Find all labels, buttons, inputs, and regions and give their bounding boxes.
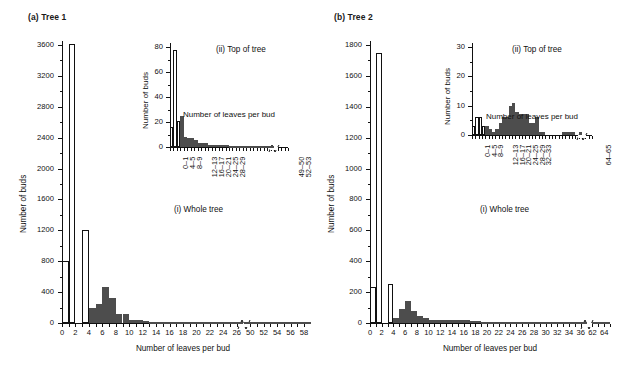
tree2-whole-tree-y-tick-label: 800	[349, 195, 362, 203]
tree1-whole-tree-y-tick-label: 2800	[37, 103, 54, 111]
tree1-top-of-tree-x-tick	[226, 148, 227, 151]
tree1-top-of-tree-y-tick-label: 20	[155, 118, 163, 126]
tree2-whole-tree-x-tick-label: 4	[391, 329, 395, 337]
tree1-whole-tree-x-tick-label: 54	[273, 329, 281, 337]
tree2-whole-tree-x-tick-label: 14	[448, 329, 456, 337]
tree2-top-of-tree-x-tick	[515, 136, 516, 139]
tree1-top-of-tree-y-tick-label: 80	[155, 43, 163, 51]
tree1-whole-tree-x-tick-label: 58	[300, 329, 308, 337]
tree1-whole-tree-x-tick-label: 50	[246, 329, 254, 337]
tree1-top-of-tree-x-tick	[239, 148, 240, 151]
tree2-whole-tree-x-tick	[411, 324, 412, 327]
tree2-whole-tree-x-tick	[393, 324, 394, 327]
tree2-whole-tree-y-tick-label: 600	[349, 226, 362, 234]
tree1-whole-tree-x-tick	[102, 324, 103, 327]
tree2-top-of-tree-y-minor-tick	[470, 120, 473, 121]
tree1-top-of-tree-y-tick	[166, 72, 170, 73]
tree2-top-of-tree-x-tick	[569, 136, 570, 139]
tree2-whole-tree-x-tick-label: 30	[541, 329, 549, 337]
tree1-whole-tree-x-tick	[143, 324, 144, 327]
tree1-whole-tree-x-tick-label: 22	[206, 329, 214, 337]
tree1-whole-tree-x-tick	[69, 324, 70, 327]
tree1-top-of-tree-x-tick	[177, 148, 178, 151]
tree1-whole-tree-x-tick-label: 8	[114, 329, 118, 337]
tree2-whole-tree-y-minor-tick	[368, 122, 371, 123]
tree1-top-of-tree-y-tick-label: 0	[159, 143, 163, 151]
tree1-whole-tree-y-minor-tick	[60, 184, 63, 185]
tree2-whole-tree-x-tick	[417, 324, 418, 327]
tree2-whole-tree-y-tick	[366, 230, 370, 231]
tree1-top-of-tree-x-tick	[257, 148, 258, 151]
tree1-whole-tree-bar-filled	[244, 322, 251, 324]
tree1-top-of-tree-x-tick	[187, 148, 188, 151]
tree2-whole-tree-x-tick	[499, 324, 500, 327]
tree1-whole-tree-y-minor-tick	[60, 215, 63, 216]
tree1-whole-tree-x-tick	[156, 324, 157, 327]
tree1-whole-tree-bar-filled	[163, 322, 170, 324]
tree2-whole-tree-y-axis	[370, 41, 371, 324]
tree2-whole-tree-x-tick	[505, 324, 506, 327]
tree1-whole-tree-bar-filled	[136, 320, 143, 323]
tree2-top-of-tree-y-axis-title: Number of buds	[444, 68, 452, 125]
tree2-top-of-tree-x-tick	[525, 136, 526, 139]
tree1-whole-tree-bar-filled	[203, 322, 210, 324]
tree1-top-of-tree-x-tick	[243, 148, 244, 151]
tree1-whole-tree-bar-filled	[149, 322, 156, 324]
tree1-whole-tree-x-tick-label: 16	[165, 329, 173, 337]
tree1-whole-tree-x-tick-label: 18	[179, 329, 187, 337]
tree2-whole-tree-bar-open	[388, 284, 394, 323]
tree2-top-of-tree-y-tick-label: 10	[457, 102, 465, 110]
tree2-top-of-tree-x-axis-title: Number of leaves per bud	[486, 113, 578, 121]
tree2-whole-tree-x-tick	[569, 324, 570, 327]
tree1-top-of-tree-y-minor-tick	[168, 110, 171, 111]
tree2-whole-tree-x-tick-label: 62	[588, 329, 596, 337]
tree1-whole-tree-x-axis-title: Number of leaves per bud	[136, 345, 230, 353]
tree1-whole-tree-y-tick-label: 3200	[37, 72, 54, 80]
tree2-whole-tree-x-tick-label: 22	[495, 329, 503, 337]
tree1-whole-tree-bar-filled	[143, 321, 150, 323]
tree1-whole-tree-bar-filled	[237, 322, 244, 324]
tree1-whole-tree-x-tick	[230, 324, 231, 327]
tree1-top-of-tree-x-tick	[180, 148, 181, 151]
tree1-top-of-tree-y-tick	[166, 122, 170, 123]
tree1-top-of-tree-x-tick	[205, 148, 206, 151]
tree2-whole-tree-x-tick	[510, 324, 511, 327]
tree1-whole-tree-x-tick	[264, 324, 265, 327]
tree1-top-of-tree-x-tick	[170, 148, 171, 151]
tree2-top-of-tree-x-tick	[475, 136, 476, 139]
tree2-top-of-tree-bar-filled	[579, 132, 582, 135]
tree1-whole-tree-x-tick	[136, 324, 137, 327]
tree1-whole-tree-y-tick-label: 800	[41, 257, 54, 265]
tree1-top-of-tree-y-tick-label: 40	[155, 93, 163, 101]
tree1-top-of-tree-x-tick	[191, 148, 192, 151]
tree1-whole-tree-y-minor-tick	[60, 60, 63, 61]
tree2-whole-tree-x-tick	[604, 324, 605, 327]
tree1-top-of-tree-x-tick	[215, 148, 216, 151]
tree1-top-of-tree-x-tick	[250, 148, 251, 151]
tree1-whole-tree-x-tick	[163, 324, 164, 327]
tree1-top-of-tree-x-tick	[246, 148, 247, 151]
tree2-whole-tree-bar-filled	[604, 322, 610, 324]
tree2-top-of-tree-x-tick	[542, 136, 543, 139]
tree1-whole-tree-x-tick	[223, 324, 224, 327]
tree2-whole-tree-y-tick-label: 1600	[345, 72, 362, 80]
tree2-whole-tree-y-minor-tick	[368, 91, 371, 92]
tree1-whole-tree-bar-filled	[284, 322, 291, 324]
tree2-whole-tree-x-tick	[528, 324, 529, 327]
tree1-whole-tree-x-tick	[297, 324, 298, 327]
tree2-top-of-tree-y-tick	[468, 76, 472, 77]
tree2-top-of-tree-x-tick	[545, 136, 546, 139]
tree2-whole-tree-y-minor-tick	[368, 246, 371, 247]
tree1-top-of-tree-x-axis-title: Number of leaves per bud	[183, 111, 275, 119]
tree1-whole-tree-x-tick	[82, 324, 83, 327]
tree1-whole-tree-y-axis-title: Number of buds	[20, 175, 28, 233]
tree2-whole-tree-y-tick-label: 1200	[345, 134, 362, 142]
tree1-top-of-tree-x-tick	[236, 148, 237, 151]
tree1-top-of-tree-y-minor-tick	[168, 85, 171, 86]
tree1-whole-tree-x-tick	[123, 324, 124, 327]
tree2-top-of-tree-x-tick	[519, 136, 520, 139]
tree1-whole-tree-y-tick	[58, 76, 62, 77]
tree1-whole-tree-y-tick	[58, 230, 62, 231]
tree2-whole-tree-x-tick-label: 20	[483, 329, 491, 337]
tree1-whole-tree-bar-filled	[170, 322, 177, 324]
